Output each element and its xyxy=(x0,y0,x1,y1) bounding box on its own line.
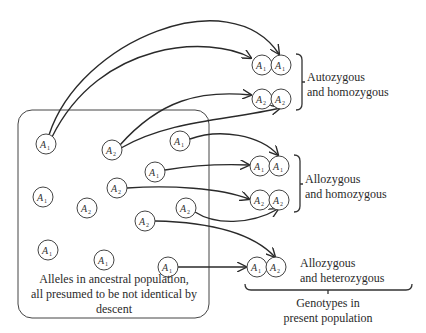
svg-text:A: A xyxy=(138,216,146,227)
svg-text:A: A xyxy=(39,139,47,150)
svg-text:1: 1 xyxy=(261,167,264,173)
svg-text:1: 1 xyxy=(49,251,52,257)
svg-text:1: 1 xyxy=(181,142,184,148)
svg-text:2: 2 xyxy=(118,189,121,195)
svg-text:1: 1 xyxy=(263,66,266,72)
svg-text:A: A xyxy=(148,167,156,178)
ancestral-allele-labels: A1 A2 A1 A1 A2 A1 A2 A2 A2 A1 A1 A1 xyxy=(36,136,190,274)
svg-text:2: 2 xyxy=(113,151,116,157)
svg-text:A: A xyxy=(253,195,261,206)
svg-text:2: 2 xyxy=(88,209,91,215)
svg-text:A: A xyxy=(272,161,280,172)
svg-text:A: A xyxy=(41,245,49,256)
svg-text:A: A xyxy=(255,60,263,71)
svg-text:A: A xyxy=(97,255,105,266)
svg-text:A: A xyxy=(250,262,258,273)
svg-text:A: A xyxy=(269,262,277,273)
svg-text:1: 1 xyxy=(280,167,283,173)
svg-text:A: A xyxy=(274,60,282,71)
svg-text:A: A xyxy=(274,94,282,105)
svg-text:A: A xyxy=(36,192,44,203)
allozygous-homozygous-label: Allozygous and homozygous xyxy=(305,172,387,202)
descent-arrows xyxy=(49,21,280,267)
allozygous-heterozygous-label: Allozygous and heterozygous xyxy=(300,256,384,286)
allozygous-homozygous-bracket xyxy=(294,155,303,212)
svg-text:1: 1 xyxy=(282,66,285,72)
svg-text:1: 1 xyxy=(258,268,261,274)
svg-text:A: A xyxy=(80,203,88,214)
autozygous-bracket xyxy=(296,54,305,110)
svg-text:1: 1 xyxy=(44,198,47,204)
svg-text:A: A xyxy=(255,94,263,105)
svg-text:A: A xyxy=(173,136,181,147)
svg-text:2: 2 xyxy=(277,268,280,274)
svg-text:1: 1 xyxy=(47,145,50,151)
svg-text:A: A xyxy=(179,203,187,214)
svg-text:A: A xyxy=(110,183,118,194)
svg-text:A: A xyxy=(272,195,280,206)
svg-text:2: 2 xyxy=(263,100,266,106)
svg-text:2: 2 xyxy=(282,100,285,106)
autozygous-label: Autozygous and homozygous xyxy=(307,70,389,100)
svg-text:1: 1 xyxy=(105,261,108,267)
svg-text:2: 2 xyxy=(280,201,283,207)
svg-text:2: 2 xyxy=(146,222,149,228)
svg-text:A: A xyxy=(105,145,113,156)
svg-text:2: 2 xyxy=(261,201,264,207)
present-population-label: Genotypes in present population xyxy=(268,296,388,326)
svg-text:2: 2 xyxy=(187,209,190,215)
svg-text:1: 1 xyxy=(156,173,159,179)
svg-text:A: A xyxy=(253,161,261,172)
ancestral-population-caption: Alleles in ancestral population, all pre… xyxy=(22,272,206,317)
